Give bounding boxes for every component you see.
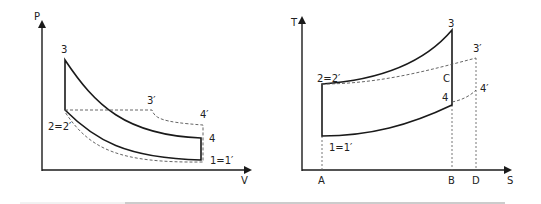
- pv-point-4: 4: [209, 133, 215, 144]
- pv-point-1: 1=1′: [210, 155, 234, 166]
- ts-point-3prime: 3′: [473, 43, 482, 54]
- p-axis-label: P: [34, 11, 40, 22]
- pv-point-3: 3: [61, 44, 67, 55]
- ts-point-2: 2=2′: [317, 73, 341, 84]
- ts-dashed-upper: [322, 58, 476, 84]
- ts-cycle-path: [322, 30, 452, 136]
- ts-tick-d: D: [472, 175, 480, 186]
- ts-dashed-lower: [452, 90, 476, 102]
- ts-tick-a: A: [318, 175, 325, 186]
- ts-point-3: 3: [448, 18, 454, 29]
- ts-point-4: 4: [442, 92, 448, 103]
- ts-point-4prime: 4′: [480, 83, 489, 94]
- pv-point-2: 2=2′: [48, 121, 72, 132]
- diagram-canvas: P V 3 2=2′ 3′ 4′ 4 1=1′ T S 3 2=2′ 3′ C …: [0, 0, 541, 204]
- ts-tick-b: B: [448, 175, 455, 186]
- ts-point-1: 1=1′: [329, 142, 353, 153]
- ts-point-c: C: [443, 73, 450, 84]
- t-axis-label: T: [290, 17, 298, 28]
- pv-diagram: [42, 22, 250, 171]
- pv-point-3prime: 3′: [147, 95, 156, 106]
- s-axis-label: S: [507, 175, 513, 186]
- pv-point-4prime: 4′: [200, 109, 209, 120]
- v-axis-label: V: [241, 175, 248, 186]
